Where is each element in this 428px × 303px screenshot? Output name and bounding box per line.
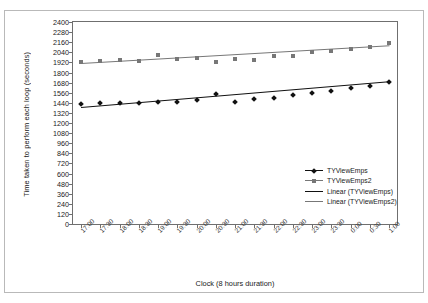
legend-item[interactable]: TYViewEmps [305,167,397,174]
data-point [233,57,237,61]
data-point [232,99,238,105]
data-point [214,60,218,64]
data-point [272,54,276,58]
data-point [156,53,160,57]
plot-area: 2400228021602040192018001680156014401320… [72,21,398,225]
y-tick-mark [69,113,73,114]
legend-swatch-icon [305,167,323,174]
x-axis-title: Clock (8 hours duration) [72,279,398,288]
y-tick-mark [69,184,73,185]
y-tick-mark [69,32,73,33]
y-tick-mark [69,42,73,43]
y-tick-mark [69,163,73,164]
y-tick-mark [69,133,73,134]
legend-label: TYViewEmps2 [327,177,371,184]
y-tick-mark [69,123,73,124]
y-tick-mark [69,174,73,175]
trendline [81,45,389,64]
data-point [174,99,180,105]
legend-swatch-icon [305,198,323,205]
legend-item[interactable]: Linear (TYViewEmps2) [305,198,397,205]
data-point [251,96,257,102]
data-point [252,58,256,62]
legend-swatch-icon [305,177,323,184]
legend-item[interactable]: TYViewEmps2 [305,177,397,184]
y-tick-mark [69,83,73,84]
data-point [367,83,373,89]
data-point [291,54,295,58]
y-tick-mark [69,93,73,94]
legend-swatch-icon [305,188,323,195]
y-tick-mark [69,143,73,144]
y-axis-title: Time taken to perform each loop (seconds… [18,24,34,224]
data-point [328,88,334,94]
data-point [309,90,315,96]
chart-figure: Time taken to perform each loop (seconds… [0,0,428,303]
legend-label: Linear (TYViewEmps2) [327,198,397,205]
legend-label: TYViewEmps [327,167,368,174]
y-tick-mark [69,62,73,63]
chart-legend: TYViewEmpsTYViewEmps2Linear (TYViewEmps)… [305,167,397,205]
data-point [271,95,277,101]
y-tick-mark [69,194,73,195]
data-point [348,85,354,91]
y-tick-mark [69,52,73,53]
y-tick-mark [69,22,73,23]
legend-item[interactable]: Linear (TYViewEmps) [305,188,397,195]
y-tick-mark [69,204,73,205]
y-tick-mark [69,73,73,74]
y-tick-mark [69,103,73,104]
y-tick-mark [69,214,73,215]
data-point [290,92,296,98]
y-tick-mark [69,224,73,225]
legend-label: Linear (TYViewEmps) [327,188,393,195]
y-tick-mark [69,153,73,154]
